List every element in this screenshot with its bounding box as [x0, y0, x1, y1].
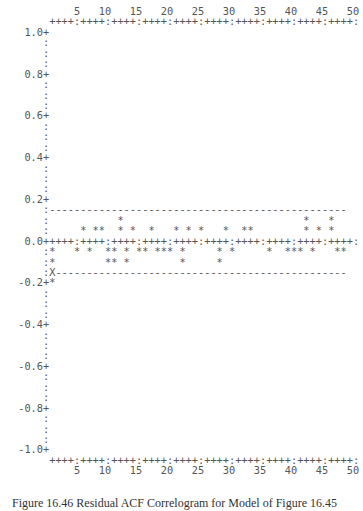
acf-row: :: [12, 121, 359, 131]
acf-row: -0.4+: [12, 319, 359, 329]
acf-row: :* * * ** * ** *** * * * * *** * **: [12, 246, 359, 256]
acf-row: :: [12, 131, 359, 141]
acf-row: :: [12, 424, 359, 434]
acf-row: :: [12, 173, 359, 183]
acf-row: :: [12, 392, 359, 402]
acf-row: :: [12, 48, 359, 58]
acf-row: :X--------------------------------------…: [12, 267, 359, 277]
acf-row: :: [12, 330, 359, 340]
figure-caption: Figure 16.46 Residual ACF Correlogram fo…: [12, 496, 337, 511]
acf-row: :: [12, 382, 359, 392]
acf-row: :: [12, 298, 359, 308]
acf-row: :: [12, 434, 359, 444]
acf-row: 0.4+: [12, 152, 359, 162]
acf-row: :: [12, 413, 359, 423]
acf-row: 0.6+: [12, 110, 359, 120]
ascii-acf-plot: 5 10 15 20 25 30 35 40 45 50 ++++:++++:+…: [12, 6, 359, 476]
acf-row: :: [12, 183, 359, 193]
acf-row: 1.0+: [12, 27, 359, 37]
x-axis-top: ++++:++++:++++:++++:++++:++++:++++:++++:…: [12, 16, 359, 26]
x-tick-labels-bottom: 5 10 15 20 25 30 35 40 45 50: [12, 465, 359, 475]
acf-row: :: [12, 58, 359, 68]
acf-row: :: [12, 288, 359, 298]
acf-row: :: [12, 309, 359, 319]
acf-row: :: [12, 90, 359, 100]
acf-row: 0.8+: [12, 69, 359, 79]
acf-row: :: [12, 37, 359, 47]
acf-row: :: [12, 100, 359, 110]
acf-row: :: [12, 340, 359, 350]
acf-row: :: [12, 350, 359, 360]
acf-row: -0.2+*: [12, 277, 359, 287]
acf-row: :: [12, 163, 359, 173]
acf-row: :: [12, 79, 359, 89]
acf-row: :: [12, 371, 359, 381]
acf-row: :: [12, 142, 359, 152]
acf-row: -0.8+: [12, 403, 359, 413]
acf-row: -0.6+: [12, 361, 359, 371]
